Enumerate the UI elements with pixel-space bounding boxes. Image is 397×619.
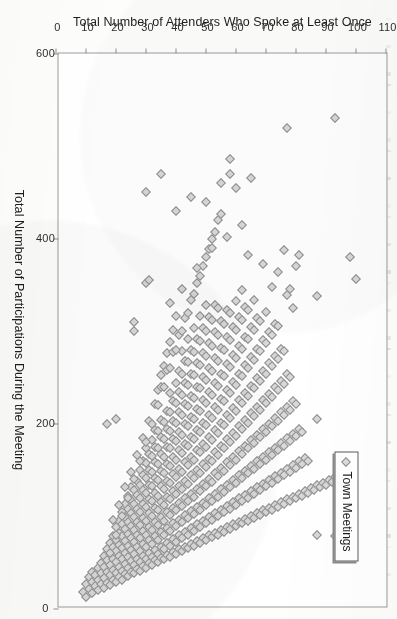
scatter-point [186, 191, 196, 201]
scatter-point [216, 178, 226, 188]
scatter-point [246, 173, 256, 183]
axis-tick [295, 48, 296, 53]
scatter-point [201, 196, 211, 206]
axis-tick [265, 48, 266, 53]
axis-tick [55, 48, 56, 53]
axis-tick [175, 48, 176, 53]
y-tick-label: 600 [36, 46, 55, 58]
scatter-point [225, 168, 235, 178]
scatter-point [129, 326, 139, 336]
scatter-point [141, 187, 151, 197]
y-tick-label: 200 [36, 416, 55, 428]
axis-tick [385, 48, 386, 53]
axis-tick [115, 48, 116, 53]
scatter-point [312, 290, 322, 300]
scatter-point [177, 284, 187, 294]
scatter-point [129, 316, 139, 326]
scatter-point [156, 168, 166, 178]
scatter-point [171, 205, 181, 215]
scatter-point [165, 337, 175, 347]
y-axis-title: Total Number of Participations During th… [11, 52, 25, 607]
scatter-point [102, 418, 112, 428]
x-tick-label: 0 [54, 20, 60, 32]
axis-tick [325, 48, 326, 53]
x-tick-label: 70 [261, 20, 274, 32]
scatter-point [258, 259, 268, 269]
figure-stage: Total Number of Attenders Who Spoke at L… [0, 0, 397, 619]
scatter-point [345, 252, 355, 262]
x-axis-title: Total Number of Attenders Who Spoke at L… [57, 14, 387, 28]
scatter-point [294, 250, 304, 260]
x-tick-label: 110 [378, 20, 396, 32]
x-tick-label: 100 [348, 20, 367, 32]
scatter-point [351, 274, 361, 284]
scatter-point [330, 113, 340, 123]
axis-tick [235, 48, 236, 53]
x-tick-label: 10 [81, 20, 94, 32]
x-tick-label: 30 [141, 20, 154, 32]
plot-frame: Town Meetings [57, 52, 387, 607]
scatter-point [222, 231, 232, 241]
scatter-point [171, 311, 181, 321]
scatter-point [249, 294, 259, 304]
scatter-point [165, 298, 175, 308]
scatter-point [312, 413, 322, 423]
axis-tick [53, 608, 58, 609]
axis-tick [145, 48, 146, 53]
scatter-point [279, 244, 289, 254]
scatter-point [183, 307, 193, 317]
scatter-point [231, 182, 241, 192]
legend[interactable]: Town Meetings [334, 451, 358, 561]
scatter-point [273, 266, 283, 276]
x-tick-label: 90 [321, 20, 334, 32]
y-tick-label: 400 [36, 231, 55, 243]
x-tick-label: 80 [291, 20, 304, 32]
scatter-point [111, 413, 121, 423]
scatter-point [291, 261, 301, 271]
scatter-point [231, 296, 241, 306]
scatter-point [261, 306, 271, 316]
scatter-point [225, 153, 235, 163]
scatter-point [267, 281, 277, 291]
x-tick-label: 40 [171, 20, 184, 32]
scatter-point [243, 250, 253, 260]
axis-tick [355, 48, 356, 53]
y-tick-label: 0 [42, 601, 48, 613]
diamond-icon [341, 457, 351, 467]
scatter-point [288, 302, 298, 312]
scatter-point [312, 529, 322, 539]
scatter-point [282, 122, 292, 132]
legend-label-town-meetings: Town Meetings [339, 471, 353, 551]
x-tick-label: 50 [201, 20, 214, 32]
x-tick-label: 60 [231, 20, 244, 32]
axis-tick [205, 48, 206, 53]
scatter-point [237, 285, 247, 295]
x-tick-label: 20 [111, 20, 124, 32]
axis-tick [85, 48, 86, 53]
scatter-point [237, 219, 247, 229]
